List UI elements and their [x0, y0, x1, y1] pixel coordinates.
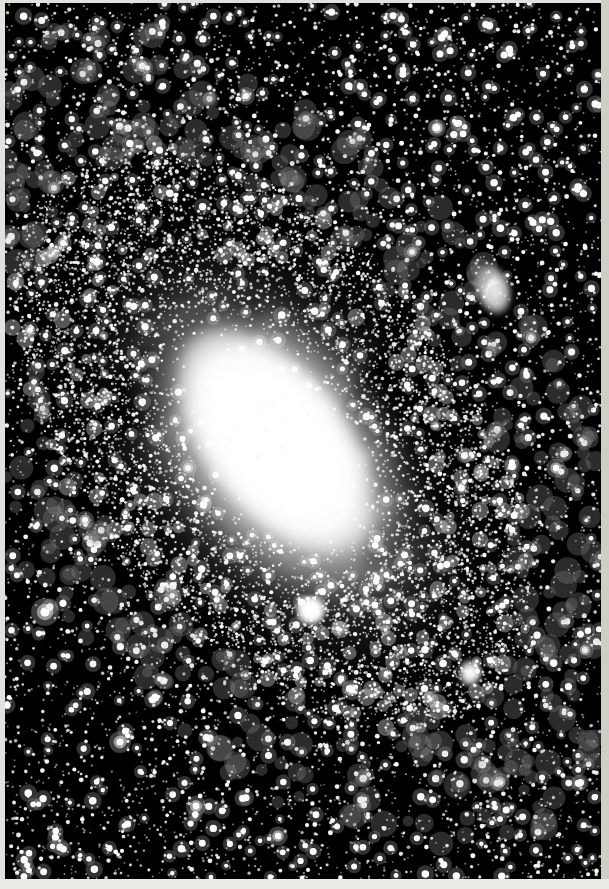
- plate-border-right: [601, 0, 609, 889]
- sky-field: [5, 3, 601, 879]
- plate-border-left: [0, 0, 5, 889]
- plate-border-bottom: [0, 879, 609, 889]
- starfield-canvas: [5, 3, 601, 879]
- plate-border-top: [0, 0, 609, 3]
- photographic-plate: The Great Nebula in Andromeda: [0, 0, 609, 889]
